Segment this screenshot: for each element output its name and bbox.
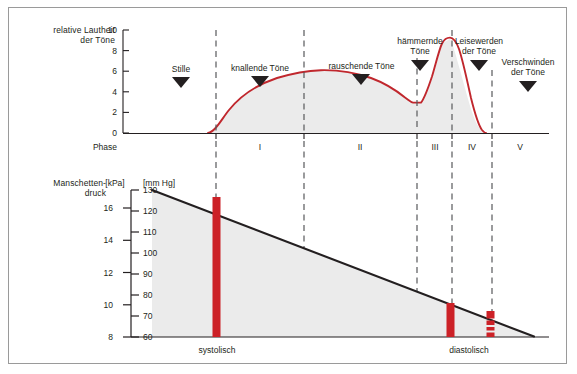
sound-bar-diastolic-iv xyxy=(447,303,455,337)
mmhg-tick-90: 90 xyxy=(143,269,152,279)
zone-label-rauschende: rauschende Töne xyxy=(319,61,404,71)
unit-kpa: [kPa] xyxy=(97,178,133,188)
top-y-tick-0: 0 xyxy=(95,128,117,138)
zone-label-verschwinden-line1: Verschwinden xyxy=(487,57,569,67)
mmhg-tick-60: 60 xyxy=(143,332,152,342)
figure-frame: relative Lautheit der Töne 10 8 6 4 2 0 … xyxy=(8,7,567,364)
mmhg-ticks xyxy=(131,190,139,337)
zone-label-leisewerden-line1: Leisewerden xyxy=(440,36,518,46)
kpa-ticks xyxy=(123,208,131,337)
bottom-y-axis-title-line2: druck xyxy=(31,188,106,198)
sound-bar-systolic xyxy=(213,197,221,337)
sound-bar-diastolic-v xyxy=(487,311,495,337)
phase-mark-ii: II xyxy=(330,142,390,152)
zone-label-stille: Stille xyxy=(151,64,211,74)
mmhg-tick-110: 110 xyxy=(143,227,157,237)
figure-stage: relative Lautheit der Töne 10 8 6 4 2 0 … xyxy=(9,8,568,365)
bottom-y-axis-title-line1: Manschetten- xyxy=(31,178,106,188)
triangle-leisewerden xyxy=(470,60,488,71)
top-y-axis-title-line2: der Töne xyxy=(37,35,115,45)
mmhg-tick-130: 130 xyxy=(143,185,157,195)
triangle-stille xyxy=(172,77,190,88)
zone-label-leisewerden-line2: der Töne xyxy=(440,46,518,56)
top-y-tick-6: 6 xyxy=(95,66,117,76)
phase-axis-label: Phase xyxy=(65,142,117,152)
marker-diastolic: diastolisch xyxy=(433,345,505,355)
phase-mark-i: I xyxy=(230,142,290,152)
mmhg-tick-100: 100 xyxy=(143,248,157,258)
top-y-tick-4: 4 xyxy=(95,87,117,97)
mmhg-tick-80: 80 xyxy=(143,290,152,300)
mmhg-tick-70: 70 xyxy=(143,311,152,321)
kpa-tick-8: 8 xyxy=(91,332,113,342)
zone-label-verschwinden-line2: der Töne xyxy=(487,67,569,77)
mmhg-tick-120: 120 xyxy=(143,206,157,216)
kpa-tick-12: 12 xyxy=(91,268,113,278)
triangle-haemmernde xyxy=(411,60,429,71)
top-y-tick-8: 8 xyxy=(95,46,117,56)
kpa-tick-16: 16 xyxy=(91,203,113,213)
marker-systolic: systolisch xyxy=(181,345,253,355)
phase-mark-v: V xyxy=(490,142,550,152)
top-y-tick-2: 2 xyxy=(95,107,117,117)
top-y-tick-10: 10 xyxy=(95,25,117,35)
kpa-tick-10: 10 xyxy=(91,300,113,310)
top-x-ticks xyxy=(216,134,492,140)
triangle-verschwinden xyxy=(519,81,537,92)
zone-label-knallende: knallende Töne xyxy=(220,63,300,73)
top-y-ticks xyxy=(123,30,129,133)
kpa-tick-14: 14 xyxy=(91,235,113,245)
